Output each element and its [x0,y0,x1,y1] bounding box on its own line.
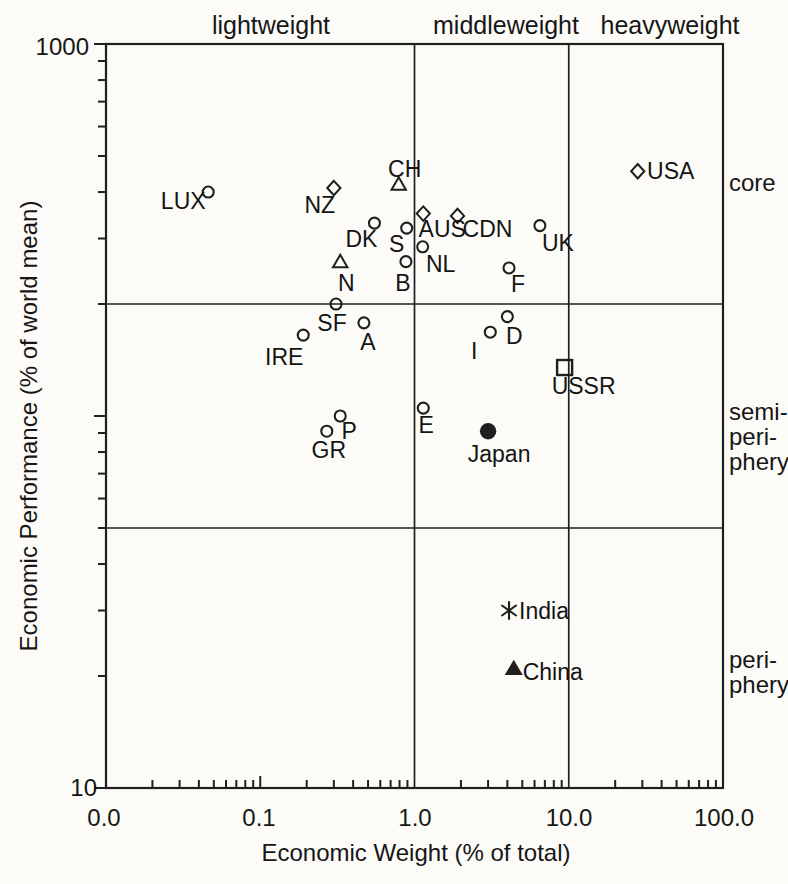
point-china-marker [505,660,523,675]
point-japan-marker [480,423,496,439]
point-n-label: N [338,269,355,296]
point-b-label: B [395,269,410,296]
y-axis-tick-label-10: 10 [33,774,97,802]
point-cdn-label: CDN [463,215,513,242]
point-usa-marker [631,164,644,178]
point-ire-label: IRE [265,344,303,371]
point-f-label: F [511,270,525,297]
chart-canvas [0,0,788,884]
point-a-label: A [360,328,375,355]
point-gr-marker [321,426,332,437]
point-ussr-label: USSR [552,372,616,399]
point-d-label: D [506,322,523,349]
point-gr-label: GR [312,437,347,464]
x-axis-tick-label-0.0: 0.0 [59,804,149,832]
x-axis-title: Economic Weight (% of total) [261,839,570,867]
x-axis-tick-label-1.0: 1.0 [370,804,460,832]
point-aus-label: AUS [419,215,466,242]
zone-label-periphery: peri- phery [729,647,788,697]
zone-label-semi-periphery: semi- peri- phery [729,399,788,474]
point-nz-label: NZ [305,192,336,219]
zone-label-core: core [729,170,776,195]
world-system-scatter-figure: lightweight middleweight heavyweight 100… [0,0,788,884]
point-uk-label: UK [542,229,574,256]
point-a-marker [358,317,369,328]
y-axis-title: Economic Performance (% of world mean) [15,201,43,652]
point-d-marker [502,311,513,322]
point-s-label: S [389,231,404,258]
point-sf-label: SF [317,310,346,337]
point-dk-label: DK [345,226,377,253]
point-i-label: I [471,338,477,365]
point-ire-marker [298,330,309,341]
point-i-marker [485,327,496,338]
point-lux-label: LUX [161,188,206,215]
point-ch-label: CH [388,156,421,183]
point-india-marker [502,602,516,619]
point-china-label: China [523,659,583,686]
point-b-marker [400,256,411,267]
point-e-label: E [419,412,434,439]
y-axis-tick-label-1000: 1000 [25,33,89,61]
point-japan-label: Japan [468,441,531,468]
point-n-marker [333,255,347,267]
point-nl-label: NL [426,250,455,277]
x-axis-tick-label-10.0: 10.0 [524,804,614,832]
point-usa-label: USA [647,158,694,185]
point-india-label: India [519,597,569,624]
x-axis-tick-label-0.1: 0.1 [214,804,304,832]
x-axis-tick-label-100.0: 100.0 [679,804,769,832]
